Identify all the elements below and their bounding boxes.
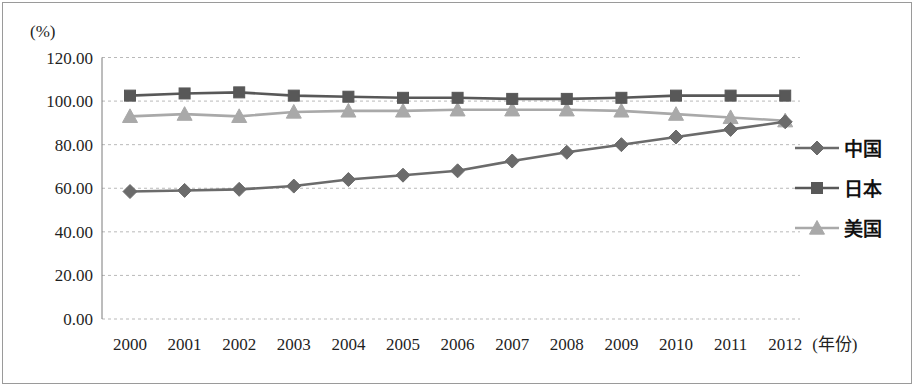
legend: 中国日本美国 xyxy=(795,138,882,240)
chart-frame xyxy=(3,3,912,384)
marker-diamond xyxy=(178,183,192,197)
x-tick-label: 2011 xyxy=(714,335,747,354)
marker-diamond xyxy=(287,179,301,193)
x-tick-label: 2002 xyxy=(222,335,256,354)
marker-diamond xyxy=(810,141,824,155)
y-axis-unit-label: (%) xyxy=(30,22,55,41)
x-tick-label: 2006 xyxy=(441,335,475,354)
x-tick-label: 2004 xyxy=(331,335,366,354)
marker-square xyxy=(561,93,572,104)
chart-canvas: 0.0020.0040.0060.0080.00100.00120.00(%)2… xyxy=(0,0,914,386)
legend-label: 中国 xyxy=(844,138,882,160)
x-tick-label: 2010 xyxy=(659,335,693,354)
marker-square xyxy=(616,92,627,103)
marker-diamond xyxy=(560,145,574,159)
marker-diamond xyxy=(123,185,137,199)
marker-square xyxy=(452,92,463,103)
series-3 xyxy=(123,102,793,127)
series-2 xyxy=(125,87,791,105)
marker-square xyxy=(812,183,823,194)
legend-label: 日本 xyxy=(844,178,882,200)
marker-diamond xyxy=(232,182,246,196)
y-tick-label: 80.00 xyxy=(55,136,93,155)
legend-item-2[interactable]: 日本 xyxy=(795,178,882,200)
marker-square xyxy=(780,90,791,101)
x-tick-label: 2005 xyxy=(386,335,420,354)
x-axis-labels: 2000200120022003200420052006200720082009… xyxy=(113,335,802,354)
line-chart: 0.0020.0040.0060.0080.00100.00120.00(%)2… xyxy=(0,0,914,386)
x-tick-label: 2012 xyxy=(768,335,802,354)
series-line xyxy=(130,122,785,192)
x-tick-label: 2009 xyxy=(604,335,638,354)
x-axis-unit-label: (年份) xyxy=(812,335,857,354)
marker-square xyxy=(507,93,518,104)
marker-diamond xyxy=(396,168,410,182)
marker-square xyxy=(125,90,136,101)
y-axis-labels: 0.0020.0040.0060.0080.00100.00120.00 xyxy=(46,49,93,330)
x-tick-label: 2008 xyxy=(550,335,584,354)
x-tick-label: 2001 xyxy=(168,335,202,354)
marker-square xyxy=(725,90,736,101)
y-tick-label: 0.00 xyxy=(63,310,93,329)
marker-diamond xyxy=(341,173,355,187)
marker-square xyxy=(343,91,354,102)
marker-square xyxy=(234,87,245,98)
marker-square xyxy=(398,92,409,103)
marker-square xyxy=(179,88,190,99)
y-tick-label: 100.00 xyxy=(46,92,93,111)
marker-square xyxy=(671,90,682,101)
series-1 xyxy=(123,115,792,199)
marker-square xyxy=(288,90,299,101)
x-tick-label: 2007 xyxy=(495,335,530,354)
y-tick-label: 120.00 xyxy=(46,49,93,68)
y-tick-label: 40.00 xyxy=(55,223,93,242)
y-tick-label: 20.00 xyxy=(55,266,93,285)
x-tick-label: 2000 xyxy=(113,335,147,354)
marker-diamond xyxy=(614,138,628,152)
legend-item-3[interactable]: 美国 xyxy=(795,218,882,240)
legend-item-1[interactable]: 中国 xyxy=(795,138,882,160)
y-tick-label: 60.00 xyxy=(55,179,93,198)
legend-label: 美国 xyxy=(844,218,882,240)
marker-diamond xyxy=(724,122,738,136)
x-tick-label: 2003 xyxy=(277,335,311,354)
marker-diamond xyxy=(505,154,519,168)
marker-diamond xyxy=(669,130,683,144)
marker-diamond xyxy=(451,164,465,178)
